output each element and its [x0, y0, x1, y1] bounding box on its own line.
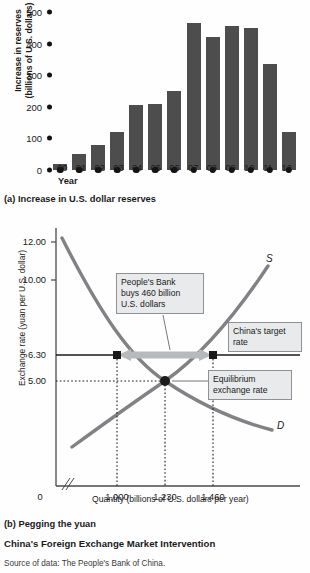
sd-y-tick-630: 6.30 [12, 350, 46, 360]
bar-rect-10 [244, 28, 258, 170]
bar-rect-06 [167, 91, 181, 170]
bar-x-tick-12: 12 [277, 163, 297, 173]
y-axis-tick-300: 300 [26, 70, 42, 81]
bar-x-tick-02: 02 [90, 163, 110, 173]
demand-curve-label: D [277, 420, 284, 431]
bar-x-tick-04: 04 [127, 163, 147, 173]
bar-03 [110, 12, 124, 170]
callout-equilibrium-exchange-rate: Equilibrium exchange rate [208, 370, 292, 400]
y-axis-tick-500: 500 [26, 7, 42, 18]
bar-12 [282, 12, 296, 170]
y-axis-dot-200 [47, 104, 52, 109]
bar-chart-x-axis-label: Year [58, 176, 78, 186]
panel-a-bar-chart: Increase in reserves (billions of U.S. d… [0, 0, 310, 215]
y-axis-dot-300 [47, 73, 52, 78]
bar-x-tick-03: 03 [108, 163, 128, 173]
source-note: Source of data: The People's Bank of Chi… [4, 559, 165, 568]
y-axis-tick-100: 100 [26, 133, 42, 144]
marker-equilibrium-point [160, 376, 170, 386]
bar-04 [129, 12, 143, 170]
bar-06 [167, 12, 181, 170]
sd-chart-svg [0, 218, 310, 518]
y-axis-dot-100 [47, 136, 52, 141]
bar-x-tick-01: 01 [71, 163, 91, 173]
y-axis-tick-0: 0 [37, 165, 42, 176]
bar-rect-08 [206, 37, 220, 170]
sd-y-tick-1000: 10.00 [12, 275, 46, 285]
bar-x-tick-00: 00 [52, 163, 72, 173]
marker-quantity-supplied-1460 [209, 351, 217, 359]
callout-target-line-1: China's target [233, 326, 297, 337]
sd-y-tick-500: 5.00 [12, 376, 46, 386]
callout-target-line-2: rate [233, 337, 297, 348]
callout-intervention-line-1: People's Bank [121, 277, 199, 288]
bar-chart-plot-area: 500 400 300 200 100 0 [53, 12, 296, 170]
callout-intervention-line-3: U.S. dollars [121, 299, 199, 310]
caption-panel-a: (a) Increase in U.S. dollar reserves [4, 194, 156, 204]
bar-rect-07 [187, 23, 201, 170]
sd-y-tick-1200: 12.00 [12, 237, 46, 247]
bar-x-tick-05: 05 [146, 163, 166, 173]
marker-quantity-demanded-1000 [113, 351, 121, 359]
bar-09 [225, 12, 239, 170]
bar-y-label-line-1: Increase in reserves [13, 0, 24, 121]
callout-intervention: People's Bank buys 460 billion U.S. doll… [116, 273, 204, 314]
bar-08 [206, 12, 220, 170]
bar-07 [187, 12, 201, 170]
bar-rect-04 [129, 105, 143, 170]
supply-curve-label: S [266, 253, 273, 264]
bar-rect-11 [263, 64, 277, 170]
bar-x-tick-07: 07 [183, 163, 203, 173]
bar-11 [263, 12, 277, 170]
caption-panel-b: (b) Pegging the yuan [4, 519, 96, 529]
panel-b-supply-demand-chart: Exchange rate (yuan per U.S. dollar) [0, 218, 310, 518]
callout-intervention-line-2: buys 460 billion [121, 288, 199, 299]
y-axis-dot-400 [47, 41, 52, 46]
bar-x-tick-09: 09 [221, 163, 241, 173]
callout-equilibrium-line-2: exchange rate [213, 385, 287, 396]
bar-rect-05 [148, 104, 162, 170]
figure-title: China's Foreign Exchange Market Interven… [4, 538, 215, 549]
x-axis-break-mark-2 [66, 478, 74, 490]
bar-rect-09 [225, 26, 239, 170]
bar-01 [72, 12, 86, 170]
sd-chart-x-axis-label: Quantity (billions of U.S. dollars per y… [92, 494, 249, 504]
bar-05 [148, 12, 162, 170]
bar-x-tick-10: 10 [239, 163, 259, 173]
bar-10 [244, 12, 258, 170]
y-axis-tick-200: 200 [26, 101, 42, 112]
sd-x-tick-0: 0 [37, 492, 42, 502]
figure-container: Increase in reserves (billions of U.S. d… [0, 0, 310, 573]
bar-x-tick-06: 06 [165, 163, 185, 173]
bar-x-tick-08: 08 [202, 163, 222, 173]
bar-series [53, 12, 296, 170]
bar-00 [53, 12, 67, 170]
bar-x-tick-11: 11 [258, 163, 278, 173]
leader-line-intervention [163, 315, 170, 350]
y-axis-dot-500 [47, 10, 52, 15]
bar-02 [91, 12, 105, 170]
y-axis-dot-0 [47, 168, 52, 173]
y-axis-tick-400: 400 [26, 38, 42, 49]
callout-equilibrium-line-1: Equilibrium [213, 374, 287, 385]
callout-china-target-rate: China's target rate [228, 322, 302, 352]
x-axis-break-mark-1 [62, 478, 70, 490]
